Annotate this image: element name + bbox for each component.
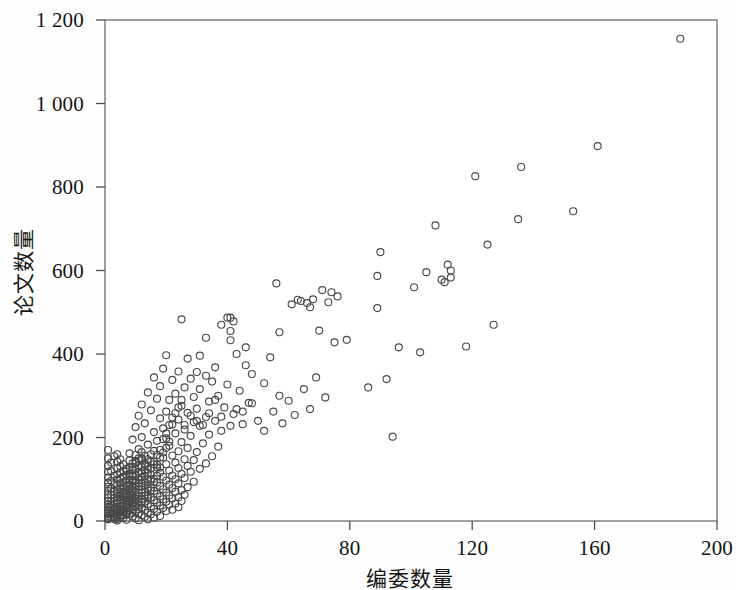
y-tick-label: 1 200 — [0, 10, 84, 31]
y-tick-label: 1 000 — [0, 93, 84, 114]
y-axis-title: 论文数量 — [7, 228, 37, 316]
x-tick-label: 80 — [339, 538, 360, 559]
y-tick-label: 200 — [0, 427, 84, 448]
x-tick-label: 160 — [579, 538, 611, 559]
x-tick-label: 0 — [100, 538, 111, 559]
x-axis-ticks — [105, 521, 717, 530]
y-tick-label: 800 — [0, 177, 84, 198]
scatter-plot-figure: 02004006008001 0001 200 04080120160200 编… — [0, 0, 736, 590]
plot-canvas — [0, 0, 736, 590]
x-axis-title: 编委数量 — [366, 562, 454, 590]
y-tick-label: 400 — [0, 344, 84, 365]
plot-frame — [105, 20, 717, 521]
x-tick-label: 200 — [701, 538, 733, 559]
x-tick-label: 40 — [217, 538, 238, 559]
y-tick-label: 0 — [0, 511, 84, 532]
x-tick-label: 120 — [456, 538, 488, 559]
y-axis-ticks — [96, 20, 105, 521]
